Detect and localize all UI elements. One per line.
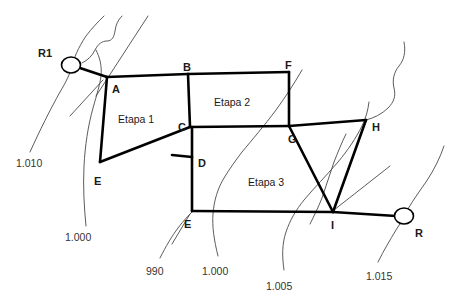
node-label-r: R — [415, 228, 423, 239]
edge-g-c — [190, 126, 289, 127]
contour-line-through-a — [96, 16, 148, 96]
edge-a-b — [107, 74, 188, 77]
contour-label-990: 990 — [146, 266, 164, 277]
node-label-e-left: E — [94, 176, 101, 187]
contour-line-r1-branch — [82, 16, 122, 63]
node-label-e-bottom: E — [184, 219, 191, 230]
diagram-canvas: R1 A B F C G H D E E I R Etapa 1 Etapa 2… — [0, 0, 454, 305]
area-label-etapa-2: Etapa 2 — [214, 97, 250, 108]
node-label-h: H — [372, 122, 380, 133]
contour-label-1000-center: 1.000 — [202, 266, 228, 277]
area-label-etapa-3: Etapa 3 — [248, 177, 284, 188]
area-label-etapa-1: Etapa 1 — [118, 114, 154, 125]
node-label-d: D — [198, 158, 206, 169]
node-label-a: A — [112, 84, 120, 95]
edge-i-r — [333, 212, 396, 216]
node-label-g: G — [288, 134, 297, 145]
edge-e2-i — [192, 211, 333, 212]
contour-line-1015 — [378, 146, 444, 262]
edge-r1-a — [80, 68, 107, 77]
contour-line-1000-left — [84, 50, 102, 226]
node-label-c: C — [178, 122, 186, 133]
node-circle-r[interactable] — [395, 208, 414, 224]
contour-label-1015: 1.015 — [366, 271, 392, 282]
contour-lines-group — [30, 16, 444, 270]
node-label-i: I — [331, 220, 334, 231]
node-label-b: B — [183, 62, 191, 73]
edge-b-f — [188, 72, 289, 74]
contour-line-1010 — [30, 16, 104, 152]
edge-h-g — [289, 120, 366, 126]
contour-label-1005: 1.005 — [266, 281, 292, 292]
node-label-r1: R1 — [38, 48, 52, 59]
edge-e1-a — [100, 77, 107, 162]
contour-line-h-upper — [366, 42, 405, 120]
node-circle-r1[interactable] — [62, 57, 81, 73]
boundary-lines-group — [80, 68, 396, 216]
contour-label-1000-left: 1.000 — [65, 232, 91, 243]
edge-d-stub — [172, 155, 192, 157]
node-label-f: F — [285, 60, 292, 71]
diagram-svg — [0, 0, 454, 305]
contour-line-a-lower-left — [70, 80, 103, 116]
edge-b-c — [188, 74, 190, 127]
contour-label-1010: 1.010 — [16, 158, 42, 169]
